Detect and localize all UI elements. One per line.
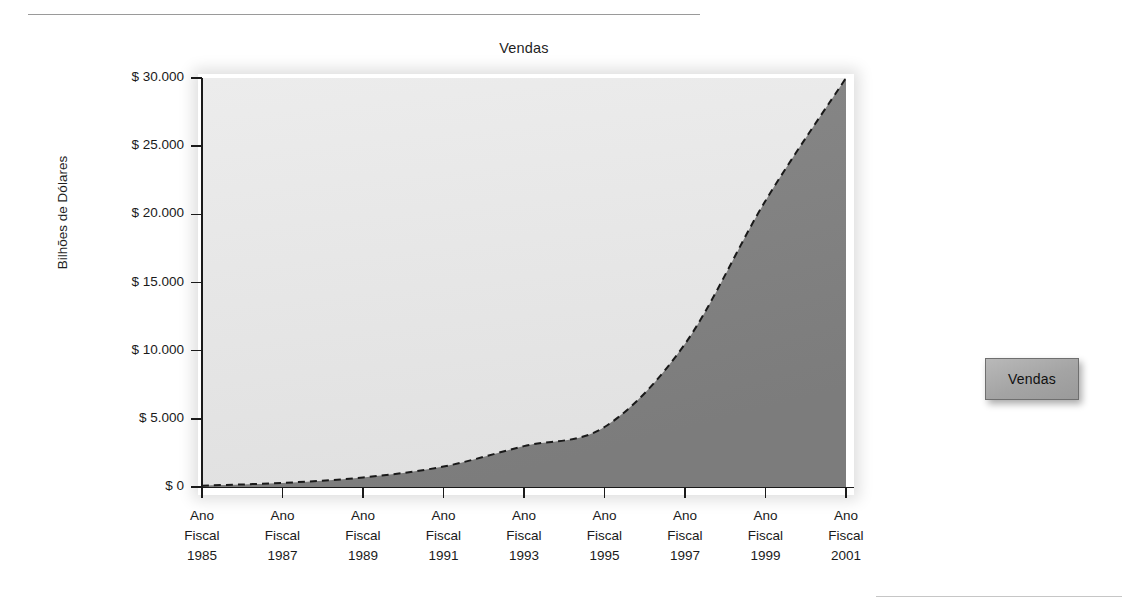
x-tick-label: AnoFiscal1985 [157,506,247,566]
x-tick-label: AnoFiscal1989 [318,506,408,566]
x-tick-mark [362,487,364,498]
chart-figure: Vendas Bilhões de Dólares [0,0,900,616]
area-chart-svg [202,78,846,487]
x-tick-mark [523,487,525,498]
x-tick-label: AnoFiscal1991 [399,506,489,566]
x-tick-mark [282,487,284,498]
x-tick-label: AnoFiscal1993 [479,506,569,566]
y-tick-label: $ 0 [64,478,184,493]
y-tick-mark [191,418,202,420]
x-tick-mark [684,487,686,498]
chart-page: Vendas Bilhões de Dólares [0,0,1148,616]
y-tick-mark [191,350,202,352]
y-tick-label: $ 10.000 [64,342,184,357]
y-tick-label: $ 15.000 [64,274,184,289]
y-tick-mark [191,214,202,216]
y-tick-mark [191,282,202,284]
bottom-divider-rule [876,596,1122,597]
x-tick-label: AnoFiscal1987 [238,506,328,566]
y-tick-mark [191,145,202,147]
x-tick-label: AnoFiscal1997 [640,506,730,566]
legend-box[interactable]: Vendas [985,358,1079,400]
x-tick-mark [443,487,445,498]
y-tick-label: $ 20.000 [64,205,184,220]
chart-title: Vendas [202,40,846,56]
x-tick-mark [201,487,203,498]
legend-label-vendas: Vendas [1008,371,1056,387]
x-tick-mark [765,487,767,498]
y-tick-mark [191,77,202,79]
x-tick-mark [604,487,606,498]
y-tick-label: $ 5.000 [64,410,184,425]
plot-area [202,78,846,487]
y-tick-label: $ 30.000 [64,69,184,84]
y-tick-label: $ 25.000 [64,137,184,152]
x-tick-label: AnoFiscal2001 [801,506,891,566]
x-tick-mark [845,487,847,498]
x-tick-label: AnoFiscal1999 [721,506,811,566]
x-tick-label: AnoFiscal1995 [560,506,650,566]
